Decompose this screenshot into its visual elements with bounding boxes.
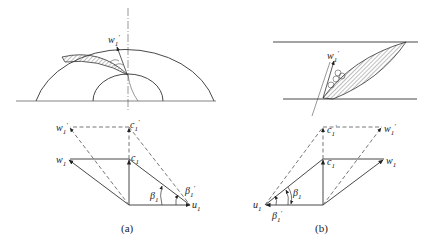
label-c1-b: c1 — [327, 157, 335, 170]
label-w1-prime-top-a: w1′ — [108, 34, 120, 48]
label-u1-a: u1 — [192, 200, 201, 213]
caption-b: (b) — [315, 223, 328, 234]
w1-vector-a — [69, 160, 129, 205]
velocity-triangle-b — [265, 127, 384, 205]
w1-prime-vector-a — [70, 128, 129, 205]
label-c1-a: c1 — [131, 153, 139, 166]
label-beta1-a: β1 — [150, 191, 158, 204]
velocity-triangle-a — [69, 127, 190, 205]
label-c1-prime-a: c1′ — [130, 119, 139, 133]
label-u1-b: u1 — [253, 200, 262, 213]
label-beta1-prime-b: β1′ — [272, 210, 282, 224]
label-beta1-prime-a: β1′ — [185, 185, 195, 199]
label-w1-b: w1 — [386, 156, 396, 169]
blade-a — [62, 55, 128, 75]
cascade-view-b — [273, 42, 418, 116]
label-w1-prime-top-b: w1′ — [327, 50, 339, 64]
label-beta1-b: β1 — [293, 188, 301, 201]
label-w1-prime-b: w1′ — [384, 123, 396, 137]
caption-a: (a) — [121, 223, 133, 234]
label-c1-prime-b: c1′ — [327, 124, 336, 138]
label-w1-a: w1 — [56, 155, 66, 168]
impeller-view-a — [16, 8, 216, 112]
label-w1-prime-a: w1′ — [56, 122, 68, 136]
